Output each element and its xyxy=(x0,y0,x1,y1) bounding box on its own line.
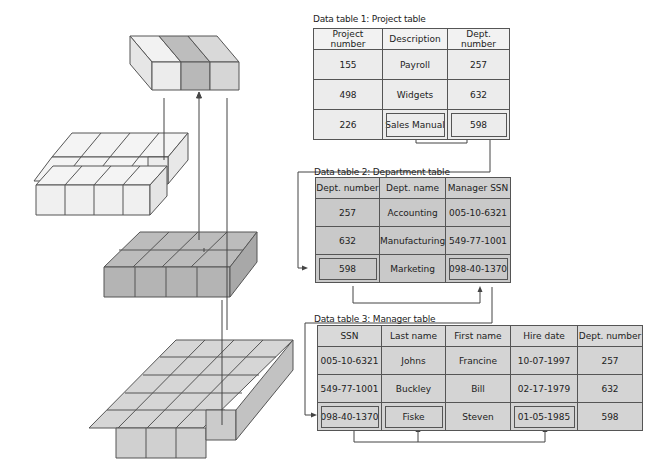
cell: 10-07-1997 xyxy=(511,347,578,375)
cell: Marketing xyxy=(380,255,446,283)
cell: 257 xyxy=(316,199,380,227)
header-dept-name: Dept. name xyxy=(380,178,446,199)
stack-connectors xyxy=(164,92,227,425)
manager-table-block xyxy=(89,340,293,458)
cell: 257 xyxy=(578,347,643,375)
table2-caption: Data table 2: Department table xyxy=(314,167,450,177)
cell-highlighted: 598 xyxy=(316,255,380,283)
result-block xyxy=(130,36,239,90)
cell: 155 xyxy=(314,50,383,80)
table-row: 155 Payroll 257 xyxy=(314,50,510,80)
cell: 598 xyxy=(578,403,643,431)
arrow-up-icon xyxy=(197,92,202,98)
header-last-name: Last name xyxy=(382,326,446,347)
cell: Manufacturing xyxy=(380,227,446,255)
header-hire-date: Hire date xyxy=(511,326,578,347)
cell: 005-10-6321 xyxy=(446,199,511,227)
header-dept-number: Dept. number xyxy=(578,326,643,347)
cell: Payroll xyxy=(383,50,448,80)
department-table-block xyxy=(104,232,257,297)
cell: Steven xyxy=(446,403,511,431)
header-dept-number: Dept. number xyxy=(316,178,380,199)
header-ssn: SSN xyxy=(318,326,382,347)
header-description: Description xyxy=(383,29,448,50)
header-manager-ssn: Manager SSN xyxy=(446,178,511,199)
cell: Accounting xyxy=(380,199,446,227)
cell: 02-17-1979 xyxy=(511,375,578,403)
table1-caption: Data table 1: Project table xyxy=(313,14,426,24)
cell: Buckley xyxy=(382,375,446,403)
table-row: 598 Marketing 098-40-1370 xyxy=(316,255,511,283)
cell-highlighted: 098-40-1370 xyxy=(318,403,382,431)
cell-highlighted: Sales Manual xyxy=(383,110,448,140)
cell: 632 xyxy=(578,375,643,403)
cell-highlighted: 098-40-1370 xyxy=(446,255,511,283)
table-row: 226 Sales Manual 598 xyxy=(314,110,510,140)
cell: 632 xyxy=(448,80,510,110)
header-first-name: First name xyxy=(446,326,511,347)
table-row: 098-40-1370 Fiske Steven 01-05-1985 598 xyxy=(318,403,643,431)
cell: Bill xyxy=(446,375,511,403)
cell: Francine xyxy=(446,347,511,375)
cell: Johns xyxy=(382,347,446,375)
cell: 005-10-6321 xyxy=(318,347,382,375)
project-table-block xyxy=(34,133,188,215)
table-row: 632 Manufacturing 549-77-1001 xyxy=(316,227,511,255)
table3-caption: Data table 3: Manager table xyxy=(314,314,435,324)
cell: Widgets xyxy=(383,80,448,110)
cell: 226 xyxy=(314,110,383,140)
table-row: 257 Accounting 005-10-6321 xyxy=(316,199,511,227)
department-table: Dept. number Dept. name Manager SSN 257 … xyxy=(315,177,511,283)
cell-highlighted: 01-05-1985 xyxy=(511,403,578,431)
table-row: 549-77-1001 Buckley Bill 02-17-1979 632 xyxy=(318,375,643,403)
table-row: 498 Widgets 632 xyxy=(314,80,510,110)
arrow-up-icon xyxy=(478,286,483,292)
header-project-number: Project number xyxy=(314,29,383,50)
cell: 498 xyxy=(314,80,383,110)
cell: 549-77-1001 xyxy=(318,375,382,403)
table-row: 005-10-6321 Johns Francine 10-07-1997 25… xyxy=(318,347,643,375)
cell-highlighted: Fiske xyxy=(382,403,446,431)
cell: 549-77-1001 xyxy=(446,227,511,255)
arrow-right-icon xyxy=(302,266,308,271)
cell: 632 xyxy=(316,227,380,255)
manager-table: SSN Last name First name Hire date Dept.… xyxy=(317,325,643,431)
cell-highlighted: 598 xyxy=(448,110,510,140)
cell: 257 xyxy=(448,50,510,80)
project-table: Project number Description Dept. number … xyxy=(313,28,510,140)
header-dept-number: Dept. number xyxy=(448,29,510,50)
